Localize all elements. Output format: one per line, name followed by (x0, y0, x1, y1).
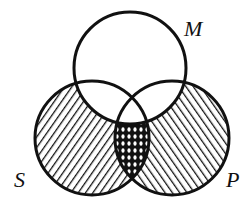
venn-diagram: M S P (0, 0, 252, 215)
label-p: P (225, 167, 239, 192)
label-s: S (14, 167, 25, 192)
label-m: M (183, 16, 204, 41)
